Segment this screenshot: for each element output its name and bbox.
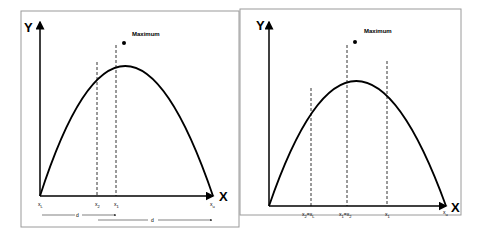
x-axis-label: X (451, 200, 460, 215)
curve (269, 81, 446, 206)
xu-label: xu (443, 209, 448, 217)
x2-label: x2 (95, 201, 101, 209)
y-axis-label: Y (256, 18, 265, 33)
x2-eq-xl-label: x2=xL (302, 211, 315, 219)
x1-eq-x2-label: x1=x2 (339, 211, 352, 219)
x1-label: x1 (385, 211, 391, 219)
xu-label: xu (210, 201, 215, 209)
curve (40, 66, 213, 196)
maximum-point (353, 40, 357, 44)
x1-label: x1 (114, 201, 120, 209)
maximum-point (122, 41, 126, 45)
right-panel: Y X Maximum x2=xL x1=x2 x1 xu (240, 9, 461, 219)
xl-label: xL (38, 201, 44, 209)
maximum-label: Maximum (132, 31, 160, 37)
distance-label: d (151, 217, 154, 223)
x-axis-label: X (219, 189, 228, 204)
golden-section-diagram: Y X Maximum xL x2 x1 xu d d Y X Maximum … (0, 0, 481, 237)
maximum-label: Maximum (364, 28, 392, 34)
left-panel: Y X Maximum xL x2 x1 xu d d (21, 11, 239, 227)
y-axis-label: Y (24, 20, 33, 35)
distance-label: d (76, 212, 79, 218)
